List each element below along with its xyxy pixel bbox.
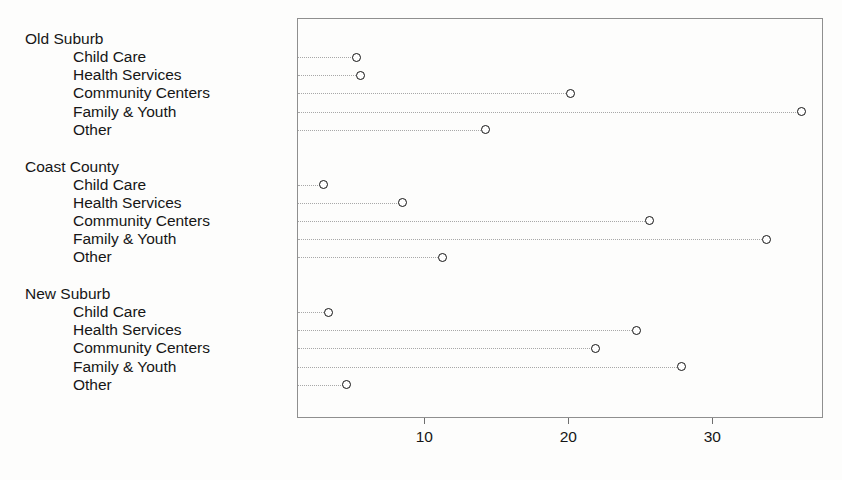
item-label-child-care: Child Care	[73, 49, 146, 65]
data-point[interactable]	[632, 326, 641, 335]
item-label-other: Other	[73, 122, 112, 138]
item-label-health-services: Health Services	[73, 195, 182, 211]
leader-line	[298, 130, 483, 132]
leader-line	[298, 367, 679, 369]
data-point[interactable]	[566, 89, 575, 98]
dot-plot-figure: Old SuburbChild CareHealth ServicesCommu…	[0, 0, 842, 480]
item-label-other: Other	[73, 249, 112, 265]
item-label-health-services: Health Services	[73, 322, 182, 338]
item-label-family-youth: Family & Youth	[73, 231, 176, 247]
category-label-column: Old SuburbChild CareHealth ServicesCommu…	[0, 0, 297, 418]
item-label-community-centers: Community Centers	[73, 213, 210, 229]
item-label-health-services: Health Services	[73, 67, 182, 83]
data-point[interactable]	[324, 308, 333, 317]
x-tick-label: 30	[704, 429, 721, 445]
data-point[interactable]	[762, 235, 771, 244]
data-point[interactable]	[438, 253, 447, 262]
leader-line	[298, 57, 353, 59]
leader-line	[298, 75, 358, 77]
data-point[interactable]	[356, 71, 365, 80]
group-label-old-suburb: Old Suburb	[25, 31, 103, 47]
leader-line	[298, 330, 634, 332]
leader-line	[298, 348, 592, 350]
item-label-other: Other	[73, 377, 112, 393]
leader-line	[298, 239, 764, 241]
x-tick-mark	[712, 418, 713, 424]
data-point[interactable]	[677, 362, 686, 371]
item-label-community-centers: Community Centers	[73, 85, 210, 101]
group-label-new-suburb: New Suburb	[25, 286, 110, 302]
x-tick-label: 20	[560, 429, 577, 445]
data-point[interactable]	[645, 216, 654, 225]
data-point[interactable]	[342, 380, 351, 389]
x-tick-label: 10	[416, 429, 433, 445]
leader-line	[298, 385, 343, 387]
leader-line	[298, 112, 798, 114]
plot-panel	[297, 18, 823, 418]
data-point[interactable]	[797, 107, 806, 116]
group-label-coast-county: Coast County	[25, 159, 119, 175]
data-point[interactable]	[481, 125, 490, 134]
leader-line	[298, 221, 647, 223]
item-label-family-youth: Family & Youth	[73, 359, 176, 375]
x-tick-mark	[568, 418, 569, 424]
item-label-child-care: Child Care	[73, 177, 146, 193]
data-point[interactable]	[352, 53, 361, 62]
leader-line	[298, 203, 399, 205]
data-point[interactable]	[591, 344, 600, 353]
data-point[interactable]	[319, 180, 328, 189]
leader-line	[298, 257, 440, 259]
data-point[interactable]	[398, 198, 407, 207]
leader-line	[298, 93, 568, 95]
x-tick-mark	[424, 418, 425, 424]
leader-line	[298, 312, 326, 314]
item-label-child-care: Child Care	[73, 304, 146, 320]
x-axis: 102030	[297, 417, 823, 477]
item-label-family-youth: Family & Youth	[73, 104, 176, 120]
leader-line	[298, 185, 320, 187]
item-label-community-centers: Community Centers	[73, 340, 210, 356]
